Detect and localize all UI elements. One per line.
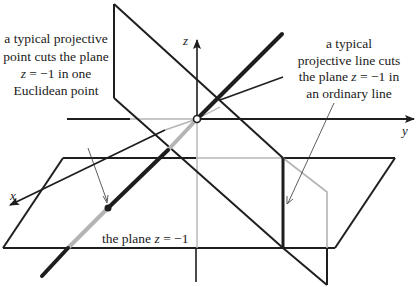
plane-right-edge [335, 158, 395, 248]
y-axis-label: y [400, 123, 408, 138]
z-axis-label: z [182, 33, 188, 48]
line-annotation-line-3: the plane z = −1 in [299, 69, 400, 84]
vplane-lower-diagonal [283, 248, 327, 285]
point-annotation-line-1: a typical projective [4, 31, 107, 46]
thin-projective-line [197, 77, 283, 119]
projective-plane-diagram: z y x a typical projective point cuts th… [0, 0, 418, 287]
line-annotation-pointer [288, 103, 334, 203]
line-annotation: a typical projective line cuts the plane… [298, 36, 401, 101]
plane-left-edge [3, 158, 63, 248]
plane-label: the plane z = −1 [102, 231, 188, 246]
thick-line-upper [197, 34, 282, 119]
point-annotation-pointer [88, 148, 107, 201]
plane-label-pre: the plane [102, 231, 154, 246]
euclidean-point [105, 205, 112, 212]
point-annotation: a typical projective point cuts the plan… [3, 31, 108, 98]
line-annotation-arrowhead [287, 196, 293, 204]
origin-point [194, 116, 201, 123]
thick-line-lower [42, 248, 68, 276]
point-annotation-line-3: z = −1 in one [20, 66, 92, 81]
x-axis-label: x [9, 188, 16, 203]
line-annotation-line-3-pre: the plane [299, 69, 351, 84]
line-annotation-line-2: projective line cuts [298, 53, 401, 68]
vplane-top-edge [114, 4, 283, 158]
plane-label-rest: = −1 [160, 231, 189, 246]
point-annotation-line-2: point cuts the plane [3, 49, 108, 64]
x-axis-visible [10, 130, 165, 205]
horizontal-plane [3, 158, 395, 248]
point-annotation-line-4: Euclidean point [13, 83, 98, 98]
z-axis [196, 40, 197, 282]
line-annotation-line-4: an ordinary line [306, 86, 391, 101]
line-annotation-line-1: a typical [326, 36, 372, 51]
line-annotation-line-3-rest: = −1 in [357, 69, 400, 84]
vplane-hidden-edge [283, 158, 327, 248]
point-annotation-line-3-rest: = −1 in one [26, 66, 91, 81]
